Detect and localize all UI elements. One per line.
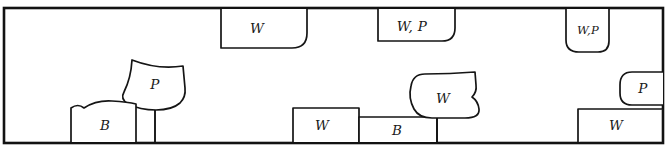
hand-drawn-diagram: W W, P W,P P B W B xyxy=(0,0,670,151)
shape-label: W xyxy=(315,117,330,133)
shape-label: P xyxy=(149,76,160,92)
shape-mid-b-box[interactable]: B xyxy=(359,117,437,142)
shape-left-b-box[interactable]: B xyxy=(71,101,136,142)
diagram-canvas: W W, P W,P P B W B xyxy=(0,0,670,151)
shape-mid-w-box[interactable]: W xyxy=(293,108,359,142)
shape-label: W xyxy=(436,90,451,106)
shape-top-wp-box[interactable]: W, P xyxy=(378,9,455,41)
shape-top-w-box[interactable]: W xyxy=(221,9,307,48)
shape-right-w-box[interactable]: W xyxy=(578,109,663,142)
shape-label: B xyxy=(391,122,402,138)
shape-right-p-box[interactable]: P xyxy=(620,72,663,105)
shape-label: W, P xyxy=(397,18,428,34)
shape-label: W,P xyxy=(577,23,599,37)
shape-label: B xyxy=(99,117,110,133)
shape-label: P xyxy=(637,80,648,96)
shape-label: W xyxy=(609,117,624,133)
shape-top-right-wp-box[interactable]: W,P xyxy=(566,9,609,52)
shape-label: W xyxy=(250,20,265,36)
